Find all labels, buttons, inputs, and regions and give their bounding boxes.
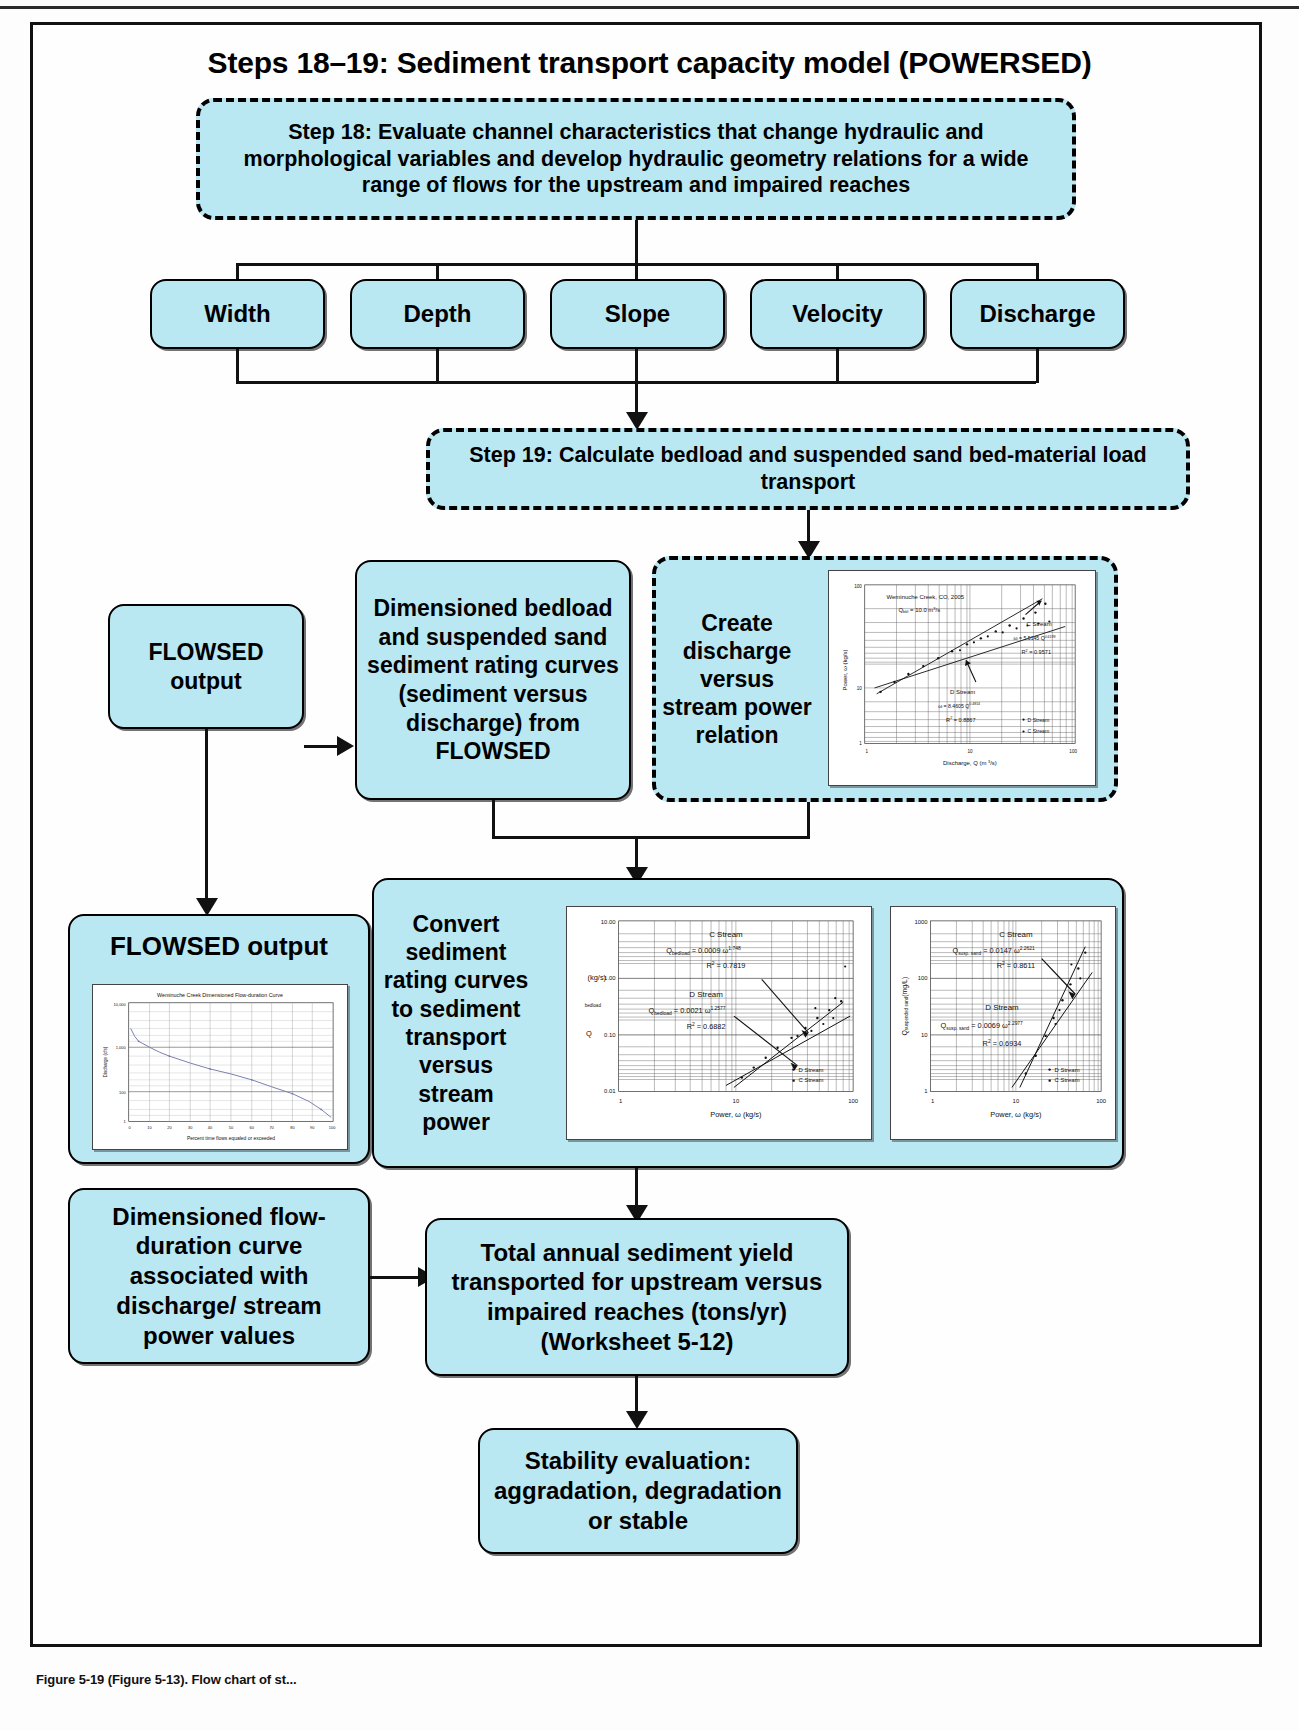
node-discharge-label: Discharge	[979, 299, 1095, 329]
svg-text:100: 100	[918, 975, 929, 981]
figure-title: Steps 18–19: Sediment transport capacity…	[0, 46, 1299, 80]
figure-frame	[30, 22, 1262, 1647]
svg-text:10: 10	[921, 1032, 928, 1038]
svg-text:C Stream: C Stream	[1027, 621, 1052, 627]
node-step-18-label: Step 18: Evaluate channel characteristic…	[226, 119, 1046, 199]
svg-text:D Stream: D Stream	[1028, 717, 1050, 723]
node-create-relation-label: Create discharge versus stream power rel…	[662, 609, 812, 749]
svg-text:bedload: bedload	[585, 1003, 602, 1008]
svg-text:Percent time flows equaled or: Percent time flows equaled or exceeded	[187, 1136, 275, 1141]
svg-text:Weminuche Creek Dimensioned: Weminuche Creek Dimensioned Flow-duratio…	[157, 992, 283, 998]
svg-text:100: 100	[1096, 1098, 1107, 1104]
svg-text:100: 100	[854, 584, 862, 589]
arrow-stability	[626, 1411, 648, 1429]
chart-suspended-sand-vs-power: 1000 100 10 1 1 10 100 Power, ω (kg/s) Q…	[890, 906, 1116, 1140]
arrow-flowsed-to-rating	[337, 736, 354, 756]
svg-text:D Stream: D Stream	[689, 990, 723, 999]
svg-text:10: 10	[1013, 1098, 1020, 1104]
svg-text:100: 100	[329, 1125, 336, 1130]
connector-flowduration-to-total	[370, 1276, 422, 1279]
svg-text:C Stream: C Stream	[798, 1077, 823, 1083]
node-flow-duration[interactable]: Dimensioned flow-duration curve associat…	[68, 1188, 370, 1364]
svg-text:10: 10	[857, 686, 863, 691]
chart-flow-duration: Weminuche Creek Dimensioned Flow-duratio…	[92, 984, 348, 1150]
connector-riser-discharge	[1036, 349, 1039, 383]
node-flowsed-output-big-label: FLOWSED output	[110, 930, 328, 962]
svg-text:Discharge (cfs): Discharge (cfs)	[103, 1046, 108, 1077]
node-depth-label: Depth	[404, 299, 472, 329]
svg-text:D Stream: D Stream	[798, 1067, 823, 1073]
node-flowsed-output-small[interactable]: FLOWSED output	[108, 604, 304, 729]
node-step-19-label: Step 19: Calculate bedload and suspended…	[448, 442, 1168, 495]
node-stability-label: Stability evaluation: aggradation, degra…	[492, 1446, 784, 1535]
node-discharge[interactable]: Discharge	[950, 279, 1125, 349]
svg-text:100: 100	[848, 1098, 859, 1104]
chart-power-vs-discharge: 100 10 1 1 10 100 Discharge, Q (m 3/s) P…	[828, 570, 1096, 786]
svg-text:1,000: 1,000	[116, 1045, 127, 1050]
svg-text:C Stream: C Stream	[999, 930, 1033, 939]
svg-text:Q: Q	[586, 1029, 592, 1038]
connector-flowsed-to-rating	[304, 745, 340, 748]
svg-text:100: 100	[1069, 749, 1077, 754]
svg-text:10,000: 10,000	[114, 1002, 127, 1007]
svg-text:Power, ω (kg/s): Power, ω (kg/s)	[710, 1110, 762, 1119]
chart-bedload-vs-power: 10.00 1.00 0.10 0.01 1 10 100 Power, ω (…	[566, 906, 872, 1140]
node-slope[interactable]: Slope	[550, 279, 725, 349]
svg-text:100: 100	[119, 1090, 126, 1095]
svg-text:Weminuche Creek, CO, 2005: Weminuche Creek, CO, 2005	[887, 594, 965, 600]
svg-text:Power, ω (kg/s): Power, ω (kg/s)	[842, 650, 848, 691]
connector-riser-width	[236, 349, 239, 383]
svg-text:10: 10	[733, 1098, 740, 1104]
node-slope-label: Slope	[605, 299, 670, 329]
svg-text:0.01: 0.01	[604, 1088, 616, 1094]
svg-text:(kg/s): (kg/s)	[587, 973, 606, 982]
node-flowsed-output-small-line2: output	[170, 667, 242, 696]
node-step-18[interactable]: Step 18: Evaluate channel characteristic…	[196, 98, 1076, 220]
page-top-rule	[0, 6, 1299, 9]
svg-text:D Stream: D Stream	[985, 1003, 1019, 1012]
connector-riser-depth	[436, 349, 439, 383]
connector-flowsed-small-down	[205, 729, 208, 904]
connector-relation-down	[807, 802, 810, 838]
node-depth[interactable]: Depth	[350, 279, 525, 349]
figure-page: Steps 18–19: Sediment transport capacity…	[0, 0, 1299, 1731]
node-width[interactable]: Width	[150, 279, 325, 349]
chart-suspended-sand-vs-power-svg: 1000 100 10 1 1 10 100 Power, ω (kg/s) Q…	[891, 907, 1115, 1139]
chart-bedload-vs-power-svg: 10.00 1.00 0.10 0.01 1 10 100 Power, ω (…	[567, 907, 871, 1139]
svg-text:D Stream: D Stream	[950, 689, 975, 695]
svg-text:C Stream: C Stream	[709, 930, 743, 939]
node-convert-label: Convert sediment rating curves to sedime…	[382, 910, 530, 1136]
svg-text:C Stream: C Stream	[1028, 728, 1050, 734]
node-velocity-label: Velocity	[792, 299, 883, 329]
svg-text:10.00: 10.00	[601, 919, 617, 925]
node-stability[interactable]: Stability evaluation: aggradation, degra…	[478, 1428, 798, 1554]
node-width-label: Width	[204, 299, 270, 329]
node-flowsed-output-small-line1: FLOWSED	[149, 638, 264, 667]
svg-text:10: 10	[967, 749, 973, 754]
chart-flow-duration-svg: Weminuche Creek Dimensioned Flow-duratio…	[93, 985, 347, 1149]
node-total-yield[interactable]: Total annual sediment yield transported …	[425, 1218, 849, 1376]
node-velocity[interactable]: Velocity	[750, 279, 925, 349]
connector-riser-velocity	[836, 349, 839, 383]
node-rating-curves[interactable]: Dimensioned bedload and suspended sand s…	[355, 560, 631, 800]
svg-text:Power, ω (kg/s): Power, ω (kg/s)	[990, 1110, 1042, 1119]
connector-rating-down	[492, 800, 495, 838]
svg-text:1000: 1000	[914, 919, 928, 925]
connector-step18-stem	[635, 220, 638, 265]
svg-text:0.10: 0.10	[604, 1032, 616, 1038]
connector-merge-to-convert	[492, 836, 810, 839]
svg-text:C Stream: C Stream	[1055, 1077, 1080, 1083]
chart-power-vs-discharge-svg: 100 10 1 1 10 100 Discharge, Q (m 3/s) P…	[829, 571, 1095, 785]
node-step-19[interactable]: Step 19: Calculate bedload and suspended…	[426, 428, 1190, 510]
node-total-yield-label: Total annual sediment yield transported …	[441, 1238, 833, 1357]
svg-text:1: 1	[124, 1119, 126, 1124]
figure-caption: Figure 5-19 (Figure 5-13). Flow chart of…	[36, 1672, 297, 1687]
connector-riser-slope	[635, 349, 638, 383]
svg-text:D Stream: D Stream	[1055, 1067, 1080, 1073]
node-rating-curves-label: Dimensioned bedload and suspended sand s…	[367, 594, 619, 765]
node-flow-duration-label: Dimensioned flow-duration curve associat…	[80, 1202, 358, 1351]
